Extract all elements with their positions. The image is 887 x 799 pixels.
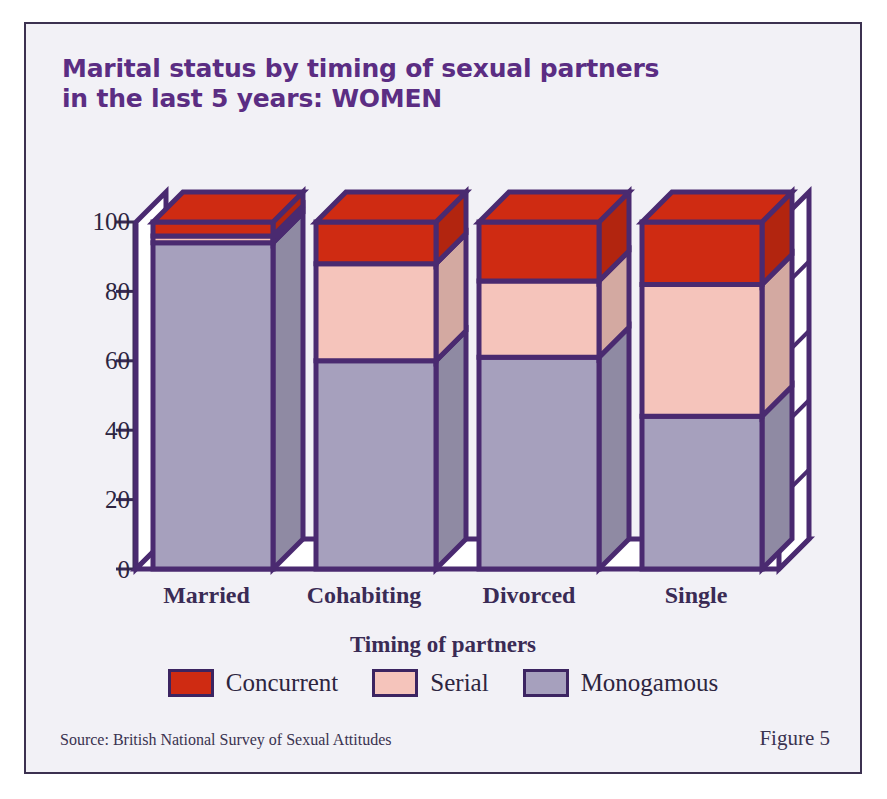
bar-top-married [153, 192, 303, 222]
y-tick-label-80: 80 [72, 278, 130, 306]
bar-segment-single-concurrent [642, 222, 762, 284]
y-tick-label-40: 40 [72, 417, 130, 445]
chart-title-line1: Marital status by timing of sexual partn… [62, 54, 659, 83]
chart-title-line2: in the last 5 years: WOMEN [62, 84, 442, 113]
bar-segment-cohabiting-monogamous [316, 361, 436, 569]
legend-label-monogamous: Monogamous [581, 669, 719, 697]
bar-side-cohabiting-monogamous [436, 331, 466, 569]
source-note: Source: British National Survey of Sexua… [60, 731, 392, 749]
x-category-label-divorced: Divorced [449, 582, 609, 609]
bar-top-single [642, 192, 792, 222]
stacked-bar-chart-3d [26, 128, 860, 618]
legend-swatch-monogamous [523, 669, 569, 697]
legend-item-serial: Serial [372, 669, 488, 697]
y-tick-label-0: 0 [72, 556, 130, 584]
bar-segment-married-monogamous [153, 243, 273, 569]
figure-page: Marital status by timing of sexual partn… [0, 0, 887, 799]
y-tick-label-20: 20 [72, 486, 130, 514]
legend-title: Timing of partners [26, 632, 860, 658]
bar-side-married-monogamous [273, 213, 303, 569]
figure-frame: Marital status by timing of sexual partn… [24, 22, 862, 774]
x-category-label-single: Single [616, 582, 776, 609]
legend-swatch-concurrent [168, 669, 214, 697]
bar-segment-divorced-concurrent [479, 222, 599, 281]
bar-segment-cohabiting-serial [316, 264, 436, 361]
x-category-label-married: Married [134, 582, 279, 609]
plot-area: 100 80 60 40 20 0 [26, 128, 860, 618]
bar-top-cohabiting [316, 192, 466, 222]
bar-segment-divorced-serial [479, 281, 599, 357]
bar-segment-single-serial [642, 284, 762, 416]
chart-title: Marital status by timing of sexual partn… [62, 54, 662, 113]
legend-item-concurrent: Concurrent [168, 669, 338, 697]
x-category-label-cohabiting: Cohabiting [279, 582, 449, 609]
y-tick-label-100: 100 [72, 208, 130, 236]
bar-segment-single-monogamous [642, 416, 762, 569]
legend-label-concurrent: Concurrent [226, 669, 338, 697]
legend-label-serial: Serial [430, 669, 488, 697]
legend: Concurrent Serial Monogamous [26, 669, 860, 697]
legend-swatch-serial [372, 669, 418, 697]
bar-group [153, 192, 792, 569]
bar-side-divorced-monogamous [599, 327, 629, 569]
figure-number: Figure 5 [759, 726, 830, 751]
bar-top-divorced [479, 192, 629, 222]
y-tick-label-60: 60 [72, 347, 130, 375]
bar-segment-divorced-monogamous [479, 357, 599, 569]
bar-segment-cohabiting-concurrent [316, 222, 436, 264]
legend-item-monogamous: Monogamous [523, 669, 719, 697]
